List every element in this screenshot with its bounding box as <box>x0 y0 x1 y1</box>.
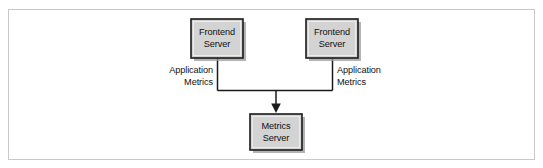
node-label-line1: Frontend <box>199 27 235 37</box>
node-body <box>250 114 302 150</box>
figure-root: Frontend Server Frontend Server Metrics … <box>0 0 543 168</box>
connector-group <box>218 57 333 113</box>
edge-label-left-line2: Metrics <box>184 77 213 87</box>
edge-label-left-line1: Application <box>169 65 213 75</box>
node-label-line2: Server <box>319 39 346 49</box>
node-frontend-server-left[interactable]: Frontend Server <box>191 19 246 61</box>
node-label-line2: Server <box>263 133 290 143</box>
arrowhead-icon <box>271 104 281 114</box>
node-label-line1: Metrics <box>262 121 291 131</box>
edge-label-right-line2: Metrics <box>337 77 366 87</box>
edge-label-right-line1: Application <box>337 65 381 75</box>
edge-label-right: Application Metrics <box>337 65 381 87</box>
node-frontend-server-right[interactable]: Frontend Server <box>306 19 361 61</box>
node-label-line2: Server <box>204 39 231 49</box>
node-label-line1: Frontend <box>314 27 350 37</box>
node-metrics-server[interactable]: Metrics Server <box>250 114 305 153</box>
diagram-canvas: Frontend Server Frontend Server Metrics … <box>0 0 543 168</box>
edge-label-left: Application Metrics <box>169 65 213 87</box>
